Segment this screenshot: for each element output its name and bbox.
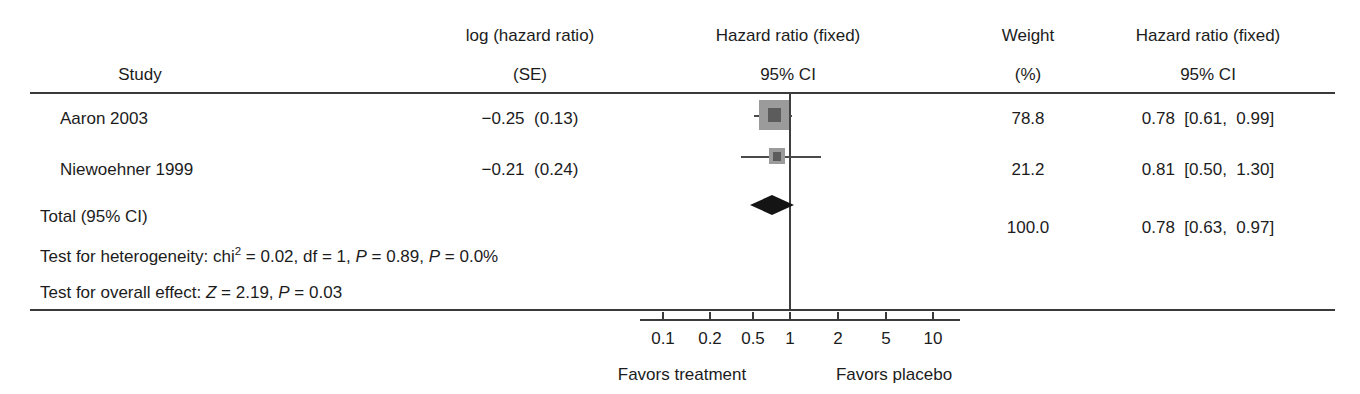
overall-effect-test: Test for overall effect: Z = 2.19, P = 0…: [40, 284, 342, 301]
overall-p-symbol: P: [278, 283, 289, 302]
table-row-logse-1: −0.21 (0.24): [482, 161, 579, 178]
x-axis-tick-label-2: 0.5: [741, 330, 765, 347]
header-weight: Weight: [1002, 27, 1055, 44]
header-plot-hazard-ratio: Hazard ratio (fixed): [716, 27, 861, 44]
study-marker-core-1: [773, 152, 781, 161]
x-axis-tick-label-5: 5: [881, 330, 890, 347]
header-log-hazard-ratio: log (hazard ratio): [466, 27, 595, 44]
table-row-weight-0: 78.8: [1011, 110, 1044, 127]
heterogeneity-p-symbol: P: [355, 247, 366, 266]
overall-p-value: = 0.03: [290, 283, 342, 302]
heterogeneity-i2-symbol: P: [429, 247, 440, 266]
x-axis-tick-label-4: 2: [833, 330, 842, 347]
x-axis-tick-2: [752, 312, 754, 319]
total-effect: 0.78 [0.63, 0.97]: [1142, 219, 1274, 236]
x-axis-tick-0: [662, 312, 664, 319]
x-axis-tick-label-1: 0.2: [698, 330, 722, 347]
overall-prefix: Test for overall effect:: [40, 283, 206, 302]
header-effect-ci: 95% CI: [1180, 66, 1236, 83]
table-row-effect-0: 0.78 [0.61, 0.99]: [1142, 110, 1274, 127]
x-axis-tick-1: [709, 312, 711, 319]
study-marker-core-0: [768, 108, 781, 122]
table-row-study-0: Aaron 2003: [60, 110, 148, 127]
x-axis-tick-label-6: 10: [924, 330, 943, 347]
header-effect-hazard-ratio: Hazard ratio (fixed): [1136, 27, 1281, 44]
table-row-study-1: Niewoehner 1999: [60, 161, 193, 178]
heterogeneity-p-value: = 0.89,: [367, 247, 429, 266]
x-axis-tick-4: [837, 312, 839, 319]
x-axis-tick-6: [932, 312, 934, 319]
table-row-weight-1: 21.2: [1011, 161, 1044, 178]
overall-z-value: = 2.19,: [216, 283, 278, 302]
x-axis-line: [640, 319, 960, 321]
header-se: (SE): [513, 66, 547, 83]
x-axis-tick-5: [885, 312, 887, 319]
header-plot-ci: 95% CI: [760, 66, 816, 83]
heterogeneity-mid: = 0.02, df = 1,: [241, 247, 355, 266]
header-study: Study: [118, 66, 161, 83]
header-weight-unit: (%): [1015, 66, 1041, 83]
axis-label-favors-placebo: Favors placebo: [836, 366, 952, 383]
heterogeneity-test: Test for heterogeneity: chi2 = 0.02, df …: [40, 248, 498, 265]
total-label: Total (95% CI): [40, 208, 148, 225]
heterogeneity-prefix: Test for heterogeneity: chi: [40, 247, 235, 266]
x-axis-tick-label-3: 1: [785, 330, 794, 347]
table-row-logse-0: −0.25 (0.13): [482, 110, 579, 127]
table-bottom-rule: [30, 309, 1335, 311]
summary-diamond-shape: [742, 189, 802, 221]
total-weight: 100.0: [1007, 219, 1050, 236]
x-axis-tick-label-0: 0.1: [651, 330, 675, 347]
x-axis-tick-3: [789, 312, 791, 319]
table-row-effect-1: 0.81 [0.50, 1.30]: [1142, 161, 1274, 178]
axis-label-favors-treatment: Favors treatment: [618, 366, 747, 383]
heterogeneity-i2-value: = 0.0%: [440, 247, 498, 266]
overall-z-symbol: Z: [206, 283, 216, 302]
table-top-rule: [30, 92, 1335, 94]
forest-plot-figure: Study log (hazard ratio) (SE) Hazard rat…: [0, 0, 1360, 394]
